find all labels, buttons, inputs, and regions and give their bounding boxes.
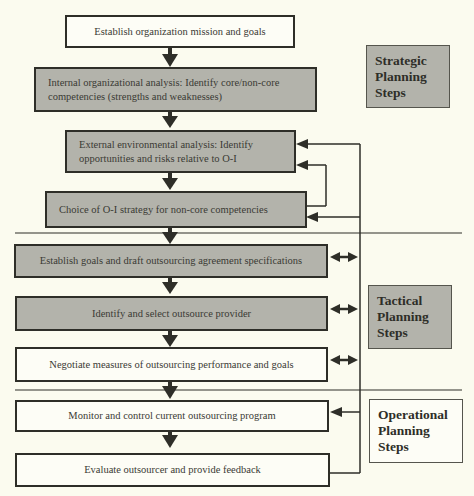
step-monitor-control: Monitor and control current outsourcing … — [15, 400, 329, 432]
step-establish-mission: Establish organization mission and goals — [65, 15, 295, 48]
phase-label-line: Tactical — [377, 293, 443, 309]
step-text: Internal organizational analysis: Identi… — [48, 76, 315, 104]
step-text: Choice of O-I strategy for non-core comp… — [59, 203, 268, 217]
step-external-analysis: External environmental analysis: Identif… — [65, 130, 296, 173]
step-draft-agreement: Establish goals and draft outsourcing ag… — [14, 244, 328, 278]
phase-label-line: Planning — [377, 309, 443, 325]
step-text: Identify and select outsource provider — [92, 307, 251, 321]
phase-label-operational: Operational Planning Steps — [369, 399, 463, 463]
step-select-provider: Identify and select outsource provider — [15, 296, 328, 331]
step-text: Establish organization mission and goals — [94, 25, 265, 39]
phase-label-line: Steps — [377, 325, 443, 341]
step-text: Monitor and control current outsourcing … — [68, 409, 275, 423]
phase-label-line: Planning — [378, 423, 454, 439]
double-arrow-icon — [330, 252, 358, 365]
phase-label-line: Planning — [375, 69, 441, 85]
step-text: Establish goals and draft outsourcing ag… — [40, 254, 302, 268]
phase-label-line: Strategic — [375, 53, 441, 69]
step-oi-strategy: Choice of O-I strategy for non-core comp… — [45, 191, 307, 228]
step-negotiate-measures: Negotiate measures of outsourcing perfor… — [15, 347, 328, 382]
step-text: Negotiate measures of outsourcing perfor… — [49, 358, 293, 372]
phase-label-line: Steps — [378, 439, 454, 455]
step-text: Evaluate outsourcer and provide feedback — [84, 463, 261, 477]
phase-label-tactical: Tactical Planning Steps — [368, 285, 452, 349]
phase-label-line: Steps — [375, 85, 441, 101]
phase-label-strategic: Strategic Planning Steps — [366, 45, 450, 108]
phase-label-line: Operational — [378, 407, 454, 423]
step-evaluate-feedback: Evaluate outsourcer and provide feedback — [15, 453, 330, 487]
step-text: External environmental analysis: Identif… — [79, 138, 294, 166]
step-internal-analysis: Internal organizational analysis: Identi… — [34, 67, 317, 112]
